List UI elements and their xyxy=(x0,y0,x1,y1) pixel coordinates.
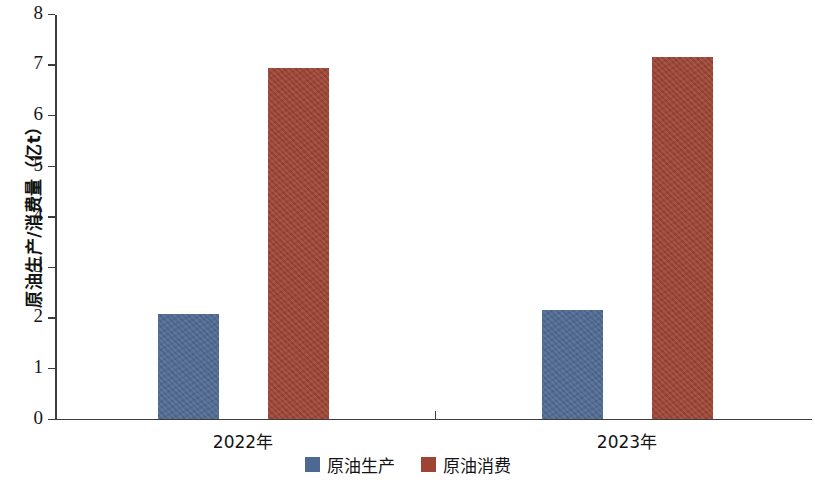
y-axis-tick: 1 xyxy=(48,368,55,369)
legend-item[interactable]: 原油生产 xyxy=(305,452,395,477)
y-axis-tick: 6 xyxy=(48,115,55,116)
legend-label: 原油生产 xyxy=(327,452,395,477)
y-axis-tick-label: 5 xyxy=(34,155,44,175)
bar-production-2023 xyxy=(542,310,603,418)
y-axis-tick-label: 0 xyxy=(34,408,44,428)
bar-consumption-2023 xyxy=(652,57,713,419)
legend-item[interactable]: 原油消费 xyxy=(421,452,511,477)
y-axis-tick: 8 xyxy=(48,14,55,15)
y-axis-tick: 2 xyxy=(48,317,55,318)
chart-legend: 原油生产原油消费 xyxy=(0,452,815,477)
bar-production-2022 xyxy=(158,314,219,419)
plot-area: 876543210 xyxy=(55,15,812,420)
legend-label: 原油消费 xyxy=(443,452,511,477)
x-axis-line xyxy=(55,419,812,421)
y-axis-tick: 3 xyxy=(48,267,55,268)
y-axis-tick-label: 7 xyxy=(34,53,44,73)
bar-consumption-2022 xyxy=(268,68,329,419)
y-axis-tick-label: 2 xyxy=(34,306,44,326)
y-axis-tick: 5 xyxy=(48,166,55,167)
y-axis-tick: 0 xyxy=(48,419,55,420)
y-axis-line xyxy=(55,15,57,420)
x-axis-tick xyxy=(435,411,436,419)
bar-chart: 原油生产/消费量（亿t） 876543210 2022年2023年 原油生产原油… xyxy=(0,0,815,480)
x-axis-category-label: 2022年 xyxy=(213,428,273,453)
y-axis-tick: 7 xyxy=(48,64,55,65)
x-axis-category-label: 2023年 xyxy=(597,428,657,453)
y-axis-tick-label: 4 xyxy=(34,205,44,225)
y-axis-tick-label: 6 xyxy=(34,104,44,124)
legend-swatch-icon xyxy=(305,457,320,472)
y-axis-tick: 4 xyxy=(48,216,55,217)
legend-swatch-icon xyxy=(421,457,436,472)
y-axis-tick-label: 3 xyxy=(34,256,44,276)
y-axis-tick-label: 1 xyxy=(34,357,44,377)
y-axis-tick-label: 8 xyxy=(34,3,44,23)
